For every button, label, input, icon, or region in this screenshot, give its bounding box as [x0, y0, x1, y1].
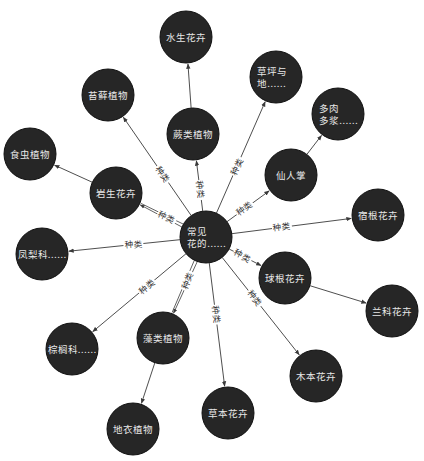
- node-label: 藻类植物: [143, 333, 183, 344]
- node-taixian[interactable]: 苔藓植物: [82, 69, 134, 121]
- edge-label: 种类: [233, 198, 256, 219]
- node-shichong[interactable]: 食虫植物: [4, 128, 56, 180]
- node-center[interactable]: 常见花的……: [180, 211, 232, 263]
- edge-label: 种类: [193, 179, 206, 200]
- node-juelei[interactable]: 蕨类植物: [167, 108, 219, 160]
- edge-qiugen-lanke: [310, 286, 366, 303]
- node-fengli[interactable]: 凤梨科……: [16, 228, 68, 280]
- node-diyi[interactable]: 地衣植物: [107, 403, 159, 455]
- edge-yansheng-shichong: [55, 165, 93, 182]
- edge-label: 种类: [271, 221, 292, 234]
- node-label: 草本花卉: [208, 408, 248, 419]
- node-label: 凤梨科……: [18, 249, 67, 260]
- node-label: 球根花卉: [265, 273, 305, 284]
- node-label: 地……: [257, 78, 286, 89]
- nodes-layer: 常见花的……水生花卉草坪与地……苔藓植物蕨类植物多肉多浆……食虫植物岩生花卉仙人…: [4, 11, 418, 455]
- node-caoping[interactable]: 草坪与地……: [250, 51, 302, 103]
- edge-xianrenzhang-duorou: [307, 135, 322, 154]
- node-label: 草坪与: [257, 66, 287, 77]
- node-qiugen[interactable]: 球根花卉: [259, 252, 311, 304]
- edge-label: 种类: [123, 238, 144, 251]
- node-label: 棕榈科……: [48, 344, 97, 355]
- edge-label: 种类: [231, 246, 254, 265]
- edge-label: 种类: [209, 304, 222, 325]
- node-label: 岩生花卉: [96, 188, 136, 199]
- edge-label: 种类: [153, 163, 173, 186]
- node-label: 水生花卉: [166, 32, 206, 43]
- edge-juelei-shuisheng: [188, 64, 191, 108]
- node-label: 花的……: [187, 238, 226, 249]
- node-label: 蕨类植物: [173, 129, 213, 140]
- edge-label: 种类: [178, 269, 196, 292]
- node-muben[interactable]: 木本花卉: [290, 350, 342, 402]
- node-xianrenzhang[interactable]: 仙人掌: [265, 149, 317, 201]
- edge-label-text: 种类: [124, 239, 143, 251]
- edge-zaolei-diyi: [141, 363, 154, 404]
- node-caoben[interactable]: 草本花卉: [202, 387, 254, 439]
- edge-label: 种类: [155, 208, 178, 227]
- node-label: 宿根花卉: [358, 210, 398, 221]
- node-lanke[interactable]: 兰科花卉: [366, 285, 418, 337]
- node-label: 木本花卉: [296, 371, 336, 382]
- mind-map-diagram: 种类种类种类种类种类种类种类种类种类种类种类种类 常见花的……水生花卉草坪与地……: [0, 0, 424, 461]
- node-yansheng[interactable]: 岩生花卉: [90, 167, 142, 219]
- node-zonglv[interactable]: 棕榈科……: [46, 323, 98, 375]
- edge-label: 种类: [228, 155, 246, 178]
- node-zaolei[interactable]: 藻类植物: [137, 312, 189, 364]
- node-label: 兰科花卉: [372, 306, 412, 317]
- node-label: 食虫植物: [10, 149, 50, 160]
- node-duorou[interactable]: 多肉多浆……: [312, 88, 364, 140]
- edge-label: 种类: [136, 276, 158, 297]
- node-label: 多浆……: [319, 115, 358, 126]
- node-label: 地衣植物: [113, 424, 153, 435]
- node-label: 常见: [187, 226, 207, 237]
- node-sugen[interactable]: 宿根花卉: [352, 189, 404, 241]
- node-label: 仙人掌: [276, 170, 306, 181]
- node-shuisheng[interactable]: 水生花卉: [160, 11, 212, 63]
- node-label: 多肉: [319, 103, 339, 114]
- node-label: 苔藓植物: [88, 90, 128, 101]
